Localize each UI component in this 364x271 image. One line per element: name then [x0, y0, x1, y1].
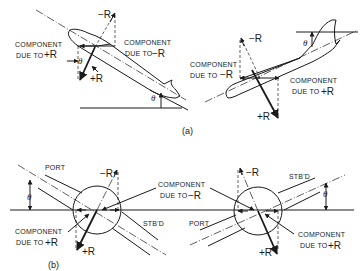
right-pos-r-label: +R: [257, 111, 270, 122]
right-comp-pos-line1: COMPONENT: [290, 77, 338, 84]
b-right-theta: θ: [323, 189, 328, 199]
b-left-pos-r-label: +R: [82, 246, 95, 257]
right-comp-neg-line1: COMPONENT: [190, 61, 238, 68]
b-left-comp-line2: DUE TO: [16, 239, 44, 246]
left-theta-nose: θ: [78, 56, 83, 66]
right-neg-r-line: [241, 38, 260, 78]
b-left-comp-line1: COMPONENT: [15, 228, 63, 235]
b-right-wing-lower-2: [208, 228, 245, 246]
b-left-wing-upper-1: [45, 175, 82, 193]
b-left-comp-symbol: +R: [45, 237, 58, 248]
b-right-neg-r-label: −R: [246, 167, 259, 178]
b-left-stbd: STB'D: [143, 220, 164, 227]
b-right-comp-line1: COMPONENT: [298, 231, 346, 238]
left-comp-pos-line1: COMPONENT: [15, 41, 63, 48]
right-neg-r-label: −R: [249, 33, 262, 44]
caption-b: (b): [48, 260, 59, 270]
b-right-comp-symbol: +R: [328, 240, 341, 251]
right-comp-neg-symbol: −R: [220, 69, 233, 80]
left-pos-r-label: +R: [90, 73, 103, 84]
b-left-neg-r-arrow: [114, 170, 117, 177]
right-aircraft-topline: [240, 58, 300, 79]
b-left-port: PORT: [45, 164, 66, 171]
b-left-neg-r-label: −R: [100, 168, 113, 179]
b-shared-label: COMPONENT DUE TO −R: [102, 181, 254, 210]
left-comp-neg-symbol: −R: [152, 48, 165, 59]
left-comp-pos-line2: DUE TO: [16, 52, 44, 59]
b-shared-pointer-left: [102, 188, 156, 210]
left-comp-pos-symbol: +R: [44, 49, 57, 60]
b-right-comp-pointer: [265, 214, 294, 234]
right-aircraft-group: θ −R +R COMPONENT DUE TO −R COMPONENT DU…: [190, 20, 358, 122]
b-shared-symbol: −R: [188, 190, 201, 201]
left-comp-neg-line1: COMPONENT: [124, 39, 172, 46]
right-theta: θ: [303, 38, 308, 48]
right-neg-r-arrow: [241, 38, 244, 46]
right-comp-neg-line2: DUE TO: [190, 72, 218, 79]
b-shared-pointer-right: [210, 188, 254, 210]
b-right-stbd: STB'D: [289, 173, 310, 180]
b-right-comp-line2: DUE TO: [300, 242, 328, 249]
left-pos-r-pointer: [92, 66, 98, 72]
resultant-force-diagram: θ −R +R θ COMPONENT DUE TO +R COMPONENT …: [0, 0, 364, 271]
b-right-section: STB'D PORT θ −R +R COMPONENT DUE TO +R: [189, 167, 346, 258]
left-comp-neg-line2: DUE TO: [125, 50, 153, 57]
b-right-port: PORT: [189, 220, 210, 227]
right-comp-pos-line2: DUE TO: [292, 88, 320, 95]
b-shared-line2: DUE TO: [160, 192, 188, 199]
b-shared-line1: COMPONENT: [158, 181, 206, 188]
b-left-comp-pointer: [68, 214, 89, 232]
left-aircraft-tail-line: [150, 90, 188, 110]
left-theta-tail: θ: [151, 93, 156, 103]
left-neg-r-label: −R: [98, 9, 111, 20]
left-aircraft-group: θ −R +R θ COMPONENT DUE TO +R COMPONENT …: [15, 9, 188, 110]
b-left-theta: θ: [27, 192, 32, 202]
b-right-pos-r-label: +R: [259, 247, 272, 258]
right-comp-pos-symbol: +R: [321, 86, 334, 97]
b-left-wing-upper-2: [38, 188, 73, 210]
caption-a: (a): [182, 126, 193, 136]
